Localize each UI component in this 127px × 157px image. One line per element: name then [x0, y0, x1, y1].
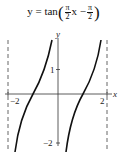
curve-branch-right — [66, 40, 101, 152]
x-tick-label-2: 2 — [100, 96, 105, 106]
plot-area: y x −2 2 1 −2 — [0, 0, 127, 157]
graph-figure: y = tan(π2x −π2) y x −2 2 1 −2 — [0, 0, 127, 157]
y-axis-label: y — [55, 29, 60, 39]
x-tick-label-neg2: −2 — [10, 96, 20, 106]
x-axis-label: x — [112, 89, 117, 99]
curve-branch-left — [15, 40, 52, 152]
y-tick-label-1: 1 — [50, 65, 55, 75]
y-tick-label-neg2: −2 — [43, 138, 53, 148]
